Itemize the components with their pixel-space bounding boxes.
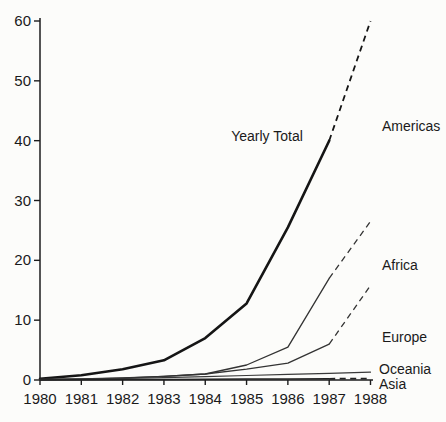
- series-yearly-total-solid-line: [40, 141, 329, 379]
- curve-label-yearly-total: Yearly Total: [231, 128, 303, 144]
- x-tick-label-1985: 1985: [230, 390, 263, 407]
- x-tick-label-1986: 1986: [271, 390, 304, 407]
- y-tick-label-60: 60: [14, 12, 31, 29]
- curve-label-americas: Americas: [382, 118, 440, 134]
- series-africa-solid-line: [40, 278, 329, 379]
- y-tick-label-20: 20: [14, 251, 31, 268]
- y-tick-label-0: 0: [23, 371, 31, 388]
- y-tick-label-50: 50: [14, 72, 31, 89]
- x-tick-label-1988: 1988: [354, 390, 387, 407]
- series-yearly-total-dashed-projection-line: [329, 21, 370, 141]
- x-tick-label-1987: 1987: [313, 390, 346, 407]
- series-europe-dashed-projection-line: [329, 286, 370, 345]
- chart-svg: 0102030405060198019811982198319841985198…: [0, 0, 446, 422]
- x-tick-label-1981: 1981: [65, 390, 98, 407]
- curve-label-africa: Africa: [382, 257, 418, 273]
- x-tick-label-1984: 1984: [189, 390, 222, 407]
- x-tick-label-1983: 1983: [147, 390, 180, 407]
- x-tick-label-1980: 1980: [23, 390, 56, 407]
- x-tick-label-1982: 1982: [106, 390, 139, 407]
- curve-label-oceania: Oceania: [379, 361, 431, 377]
- y-tick-label-40: 40: [14, 132, 31, 149]
- series-africa-dashed-projection-line: [329, 221, 370, 278]
- line-chart-figure: 0102030405060198019811982198319841985198…: [0, 0, 446, 422]
- curve-label-asia: Asia: [379, 376, 406, 392]
- y-tick-label-10: 10: [14, 311, 31, 328]
- y-tick-label-30: 30: [14, 192, 31, 209]
- curve-label-europe: Europe: [382, 329, 427, 345]
